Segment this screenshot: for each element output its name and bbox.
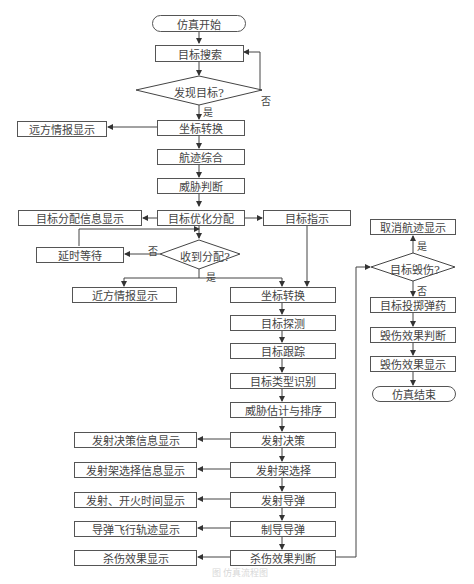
- flight-track-display-box: 导弹飞行轨迹显示: [74, 521, 197, 537]
- delay-wait-box: 延时等待: [36, 247, 124, 263]
- yes-label-3: 是: [417, 238, 427, 253]
- type-identify-box: 目标类型识别: [230, 373, 336, 389]
- threat-eval-sort-box: 威胁估计与排序: [230, 402, 336, 418]
- received-assign-decision: 收到分配?: [180, 248, 230, 264]
- near-intel-display-box: 近方情报显示: [72, 287, 177, 303]
- guide-missile-box: 制导导弹: [230, 521, 336, 537]
- drop-munition-box: 目标投掷弹药: [370, 297, 456, 313]
- found-target-decision: 发现目标?: [174, 84, 224, 100]
- launch-missile-box: 发射导弹: [230, 492, 336, 508]
- far-intel-display-box: 远方情报显示: [17, 121, 107, 137]
- figure-caption: 图 仿真流程图: [150, 566, 330, 580]
- target-destroyed-decision: 目标毁伤?: [390, 261, 440, 277]
- end-terminal: 仿真结束: [372, 386, 456, 402]
- launcher-select-display-box: 发射架选择信息显示: [74, 462, 197, 478]
- damage-effect-judge-box: 毁伤效果判断: [370, 327, 456, 343]
- coord-transform-box-2: 坐标转换: [230, 287, 336, 303]
- threat-judge-box: 威胁判断: [157, 178, 245, 194]
- launch-fire-time-display-box: 发射、开火时间显示: [74, 492, 197, 508]
- target-indicate-box: 目标指示: [263, 210, 351, 226]
- launch-decision-box: 发射决策: [230, 432, 336, 448]
- target-opt-assign-box: 目标优化分配: [157, 210, 245, 226]
- yes-label: 是: [203, 104, 213, 119]
- start-terminal: 仿真开始: [152, 15, 246, 32]
- launcher-select-box: 发射架选择: [230, 462, 336, 478]
- kill-effect-display-box: 杀伤效果显示: [74, 550, 197, 566]
- launch-decision-display-box: 发射决策信息显示: [74, 432, 197, 448]
- cancel-track-display-box: 取消航迹显示: [370, 219, 456, 235]
- target-search-box: 目标搜索: [155, 45, 244, 62]
- assign-info-display-box: 目标分配信息显示: [18, 210, 142, 226]
- target-detect-box: 目标探测: [230, 315, 336, 331]
- kill-effect-judge-box: 杀伤效果判断: [230, 550, 336, 566]
- no-label-2: 否: [148, 243, 158, 258]
- no-label: 否: [261, 93, 271, 108]
- no-label-3: 否: [417, 283, 427, 298]
- yes-label-2: 是: [206, 269, 216, 284]
- track-fusion-box: 航迹综合: [157, 149, 245, 165]
- target-track-box: 目标跟踪: [230, 343, 336, 359]
- coord-transform-box-1: 坐标转换: [157, 120, 245, 136]
- damage-effect-display-box: 毁伤效果显示: [370, 356, 456, 372]
